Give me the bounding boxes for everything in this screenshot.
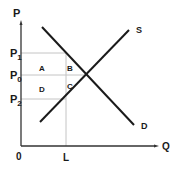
demand-curve [42,27,134,125]
region-a-label: A [39,64,45,73]
region-c-label: C [67,82,73,91]
origin-label: 0 [16,151,22,162]
demand-curve-label: D [141,121,148,131]
l-quantity-label: L [63,152,69,163]
region-d-label: D [39,85,45,94]
supply-demand-diagram: P Q 0 L P1 P0 P2 S D A B D C [0,0,170,169]
region-b-label: B [67,64,73,73]
supply-curve [40,30,129,122]
x-axis-label: Q [162,141,170,152]
y-axis-arrow-icon [20,20,23,25]
x-axis-arrow-icon [154,145,159,148]
supply-curve-label: S [136,25,142,35]
y-axis-label: P [13,7,20,19]
